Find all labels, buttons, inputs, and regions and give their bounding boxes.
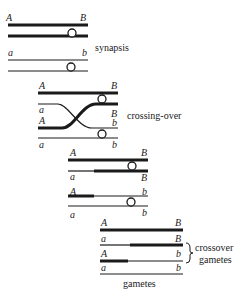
label-a: a (101, 233, 106, 244)
centromere (68, 29, 76, 37)
label-a: a (101, 262, 106, 273)
synapsis-stage: A B a b synapsis (5, 12, 129, 71)
centromere (98, 95, 106, 103)
label-a: a (39, 104, 44, 115)
label-A: A (100, 217, 108, 228)
label-b: b (112, 117, 117, 128)
label-b: b (142, 207, 147, 218)
crossing-over-caption: crossing-over (127, 110, 182, 121)
label-a: a (70, 171, 75, 182)
label-A: A (38, 115, 46, 126)
centromere (98, 130, 106, 138)
label-A: A (100, 248, 108, 259)
label-a: a (70, 209, 75, 220)
label-A: A (38, 80, 46, 91)
label-b: b (112, 139, 117, 150)
label-b: b (142, 186, 147, 197)
label-B: B (80, 12, 86, 23)
gametes-caption: gametes (123, 278, 156, 289)
chromatid-A-crossing (38, 104, 118, 128)
label-b: b (176, 248, 181, 259)
crossing-over-diagram: A B a b synapsis A B a B A b a b crossin… (0, 0, 241, 300)
label-B: B (141, 147, 147, 158)
label-b: b (176, 262, 181, 273)
label-a: a (39, 139, 44, 150)
crossover-caption: crossover (195, 242, 234, 253)
brace-icon (186, 243, 193, 263)
synapsis-caption: synapsis (95, 42, 129, 53)
gametes-stage: A B a B A b a b crossover gametes gamete… (100, 217, 234, 289)
centromere (127, 198, 135, 206)
label-b: b (82, 47, 87, 58)
crossing-over-stage: A B a B A b a b crossing-over (38, 80, 182, 150)
crossover-gametes-caption: gametes (199, 254, 232, 265)
label-A: A (5, 12, 13, 23)
label-B: B (141, 172, 147, 183)
label-a: a (8, 47, 13, 58)
separation-stage: A B a B A b a b (68, 147, 148, 220)
centromere (128, 162, 136, 170)
label-A: A (69, 147, 77, 158)
label-B: B (175, 217, 181, 228)
label-B: B (175, 233, 181, 244)
label-B: B (111, 80, 117, 91)
centromere (67, 63, 75, 71)
